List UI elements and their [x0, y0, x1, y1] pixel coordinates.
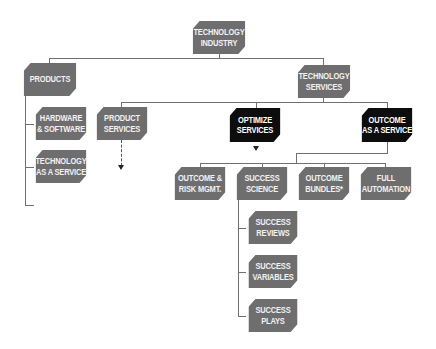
node-products: PRODUCTS [24, 63, 77, 96]
down-arrow-icon [118, 165, 124, 170]
connector [25, 124, 34, 125]
connector [25, 93, 26, 205]
dashed-connector [121, 140, 122, 166]
connector [256, 102, 257, 109]
node-technology-industry: TECHNOLOGY INDUSTRY [193, 21, 246, 54]
node-label: TECHNOLOGY INDUSTRY [193, 27, 244, 48]
connector [25, 167, 34, 168]
node-success-variables: SUCCESS VARIABLES [248, 255, 297, 288]
node-label: SUCCESS VARIABLES [252, 261, 293, 282]
node-technology-as-a-service: TECHNOLOGY AS A SERVICE [35, 150, 86, 183]
connector [296, 153, 388, 154]
node-success-plays: SUCCESS PLAYS [248, 299, 297, 332]
node-label: SUCCESS SCIENCE [245, 173, 280, 194]
node-label: SUCCESS REVIEWS [256, 217, 291, 238]
node-label: TECHNOLOGY SERVICES [298, 71, 349, 92]
node-label: OPTIMIZE SERVICES [237, 115, 273, 136]
node-hardware-software: HARDWARE & SOFTWARE [35, 107, 86, 140]
node-outcome-risk-mgmt: OUTCOME & RISK MGMT. [174, 167, 225, 200]
connector [238, 200, 239, 316]
node-label: PRODUCT SERVICES [104, 113, 140, 134]
node-label: OUTCOME AS A SERVICE [362, 115, 412, 136]
node-outcome-as-a-service: OUTCOME AS A SERVICE [361, 108, 412, 142]
node-success-reviews: SUCCESS REVIEWS [248, 211, 297, 244]
connector [25, 205, 34, 206]
node-label: HARDWARE & SOFTWARE [37, 113, 85, 134]
node-label: SUCCESS PLAYS [256, 305, 291, 326]
connector [200, 163, 386, 164]
connector [238, 228, 246, 229]
node-technology-services: TECHNOLOGY SERVICES [298, 65, 351, 98]
node-outcome-bundles: OUTCOME BUNDLES* [298, 167, 349, 200]
connector [323, 58, 324, 66]
node-label: OUTCOME & RISK MGMT. [178, 173, 222, 194]
connector [238, 316, 246, 317]
node-label: OUTCOME BUNDLES* [305, 173, 343, 194]
connector [296, 153, 297, 163]
connector [121, 102, 388, 103]
node-full-automation: FULL AUTOMATION [360, 167, 411, 200]
node-label: TECHNOLOGY AS A SERVICE [35, 156, 86, 177]
node-label: FULL AUTOMATION [362, 173, 410, 194]
node-success-science: SUCCESS SCIENCE [236, 167, 287, 200]
connector [49, 58, 324, 59]
down-arrow-icon [253, 146, 259, 151]
node-product-services: PRODUCT SERVICES [96, 107, 147, 140]
node-label: PRODUCTS [30, 74, 71, 85]
connector [238, 272, 246, 273]
node-optimize-services: OPTIMIZE SERVICES [229, 108, 280, 142]
